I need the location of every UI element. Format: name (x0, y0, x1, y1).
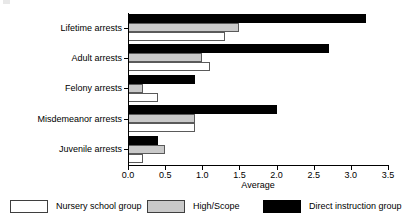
chart-screenshot: Lifetime arrestsAdult arrestsFelony arre… (0, 0, 405, 219)
legend-swatch (263, 200, 301, 213)
x-axis-tick-label: 0.0 (122, 170, 135, 180)
x-axis-line (128, 165, 389, 166)
bar (128, 44, 329, 53)
x-axis-tick-label: 0.5 (159, 170, 172, 180)
bar (128, 84, 143, 93)
bar-chart: Lifetime arrestsAdult arrestsFelony arre… (0, 0, 405, 190)
legend-label: Nursery school group (56, 201, 142, 211)
y-axis-label: Misdemeanor arrests (37, 114, 122, 124)
plot-area (128, 13, 388, 165)
y-axis-tick (124, 88, 128, 89)
bar (128, 145, 165, 154)
legend-swatch (147, 200, 185, 213)
x-axis-tick-label: 2.0 (270, 170, 283, 180)
x-axis-tick-label: 3.0 (345, 170, 358, 180)
y-axis-label: Felony arrests (65, 83, 122, 93)
x-axis-tick-label: 3.5 (382, 170, 395, 180)
bar (128, 23, 239, 32)
x-axis-tick-label: 2.5 (307, 170, 320, 180)
y-axis-line (128, 13, 129, 165)
bar (128, 123, 195, 132)
bar (128, 53, 202, 62)
y-axis-label: Juvenile arrests (59, 144, 122, 154)
x-axis-tick-label: 1.0 (196, 170, 209, 180)
legend-item: High/Scope (147, 198, 240, 214)
bar (128, 32, 225, 41)
bar (128, 14, 366, 23)
y-axis-tick (124, 149, 128, 150)
legend-item: Direct instruction group (263, 198, 402, 214)
y-axis-tick (124, 119, 128, 120)
y-axis-label: Lifetime arrests (60, 23, 122, 33)
bar (128, 93, 158, 102)
legend-label: High/Scope (193, 201, 240, 211)
legend-item: Nursery school group (10, 198, 142, 214)
legend-swatch (10, 200, 48, 213)
chart-legend: Nursery school groupHigh/ScopeDirect ins… (0, 194, 405, 219)
y-axis-tick (124, 28, 128, 29)
bar (128, 154, 143, 163)
bar (128, 105, 277, 114)
x-axis-tick-label: 1.5 (233, 170, 246, 180)
y-axis-label: Adult arrests (71, 53, 122, 63)
y-axis-labels: Lifetime arrestsAdult arrestsFelony arre… (0, 0, 122, 190)
bar (128, 62, 210, 71)
bar (128, 136, 158, 145)
bar (128, 75, 195, 84)
y-axis-tick (124, 58, 128, 59)
bar (128, 114, 195, 123)
legend-label: Direct instruction group (309, 201, 402, 211)
x-axis-title: Average (128, 180, 388, 190)
